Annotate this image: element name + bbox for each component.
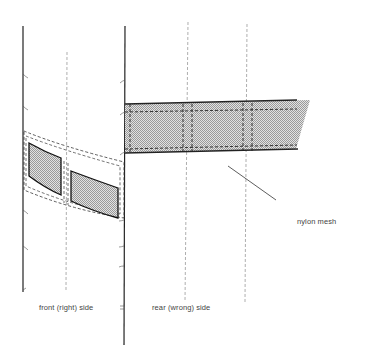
rear-dashed-line-2 xyxy=(245,24,247,302)
rear-fabric-edge xyxy=(124,26,125,345)
patch-1 xyxy=(29,143,61,195)
nylon-mesh-label: nylon mesh xyxy=(297,217,336,226)
nylon-mesh-band xyxy=(125,100,310,153)
front-side-label: front (right) side xyxy=(39,303,93,312)
front-center-dashed-line xyxy=(66,52,67,290)
rear-dashed-line-1 xyxy=(185,22,188,302)
patch-2 xyxy=(71,171,118,218)
front-patches xyxy=(24,131,124,218)
mesh-leader-line xyxy=(228,166,276,200)
rear-side-label: rear (wrong) side xyxy=(152,303,210,312)
